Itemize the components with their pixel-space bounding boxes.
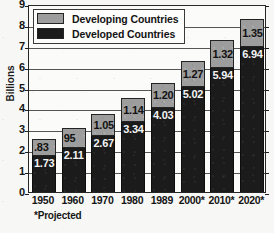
bar-value-label-developing: 1.35 (242, 28, 263, 39)
bar-value-label-developed: 1.73 (34, 158, 55, 169)
bar-value-label-developed: 5.02 (183, 89, 204, 100)
legend-label: Developing Countries (72, 13, 179, 25)
x-tick-label: 2020* (234, 194, 268, 206)
y-tickmark (265, 48, 269, 49)
chart-figure: Billions 0123456789 .831.73952.111.052.6… (0, 0, 274, 233)
y-tick-label: 3 (11, 125, 25, 134)
y-tick-label: 6 (11, 63, 25, 72)
bar-value-label-developing: 1.20 (153, 90, 174, 101)
y-tick-label: 0 (11, 188, 25, 197)
y-tick-label: 8 (11, 21, 25, 30)
y-tickmark (265, 173, 269, 174)
legend-label: Developed Countries (72, 28, 175, 40)
bar-value-label-developing: 1.14 (123, 105, 144, 116)
y-tickmark (265, 131, 269, 132)
y-tickmark (265, 27, 269, 28)
bar-segment-developed (181, 87, 205, 192)
bar-segment-developed (240, 47, 264, 192)
bar-value-label-developed: 6.94 (242, 49, 263, 60)
y-tickmark (265, 6, 269, 7)
footnote: *Projected (34, 210, 81, 221)
y-tickmark (265, 110, 269, 111)
y-tick-label: 7 (11, 42, 25, 51)
legend-item-developed: Developed Countries (34, 26, 184, 41)
stacked-bar (240, 19, 264, 192)
x-axis-tick-labels: 195019601970198019892000*2010*2020* (28, 194, 266, 208)
y-tick-label: 9 (11, 0, 25, 9)
bar-value-label-developed: 2.67 (93, 138, 114, 149)
y-tickmark (265, 90, 269, 91)
y-axis-tick-labels: 0123456789 (8, 0, 25, 233)
stacked-bar (210, 40, 234, 192)
bar-value-label-developed: 2.11 (64, 150, 84, 161)
legend-item-developing: Developing Countries (34, 11, 184, 26)
bar-value-label-developed: 5.94 (212, 70, 233, 81)
y-tickmark (265, 69, 269, 70)
bar-segment-developed (210, 68, 234, 192)
legend: Developing Countries Developed Countries (33, 9, 185, 44)
y-tickmark (265, 152, 269, 153)
bar-value-label-developing: 95 (64, 133, 76, 144)
legend-swatch-gray (37, 13, 64, 24)
bar-value-label-developing: 1.32 (212, 49, 233, 60)
bar-value-label-developed: 4.03 (153, 110, 174, 121)
y-tick-label: 4 (11, 104, 25, 113)
bar-value-label-developed: 3.34 (123, 124, 144, 135)
legend-swatch-black (37, 28, 64, 39)
bar-value-label-developing: .83 (34, 142, 49, 153)
y-tick-label: 2 (11, 146, 25, 155)
bar-value-label-developing: 1.27 (183, 69, 204, 80)
stacked-bar (181, 61, 205, 192)
y-tick-label: 5 (11, 84, 25, 93)
bar-value-label-developing: 1.05 (93, 120, 114, 131)
y-tick-label: 1 (11, 167, 25, 176)
